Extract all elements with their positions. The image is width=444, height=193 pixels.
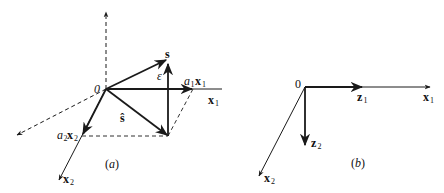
- svg-text:x: x: [423, 90, 429, 104]
- x2-axis-b: [259, 87, 305, 176]
- svg-text:x: x: [67, 128, 73, 142]
- label-z2: z 2: [311, 136, 322, 151]
- svg-text:1: 1: [364, 96, 368, 105]
- label-x1-a: x 1: [208, 93, 219, 108]
- caption-b: (b): [351, 156, 365, 170]
- svg-text:2: 2: [318, 142, 322, 151]
- svg-text:2: 2: [74, 134, 78, 143]
- dashed-projection-line-diagonal: [168, 89, 193, 136]
- svg-text:1: 1: [191, 80, 195, 89]
- label-s-hat: ŝ: [120, 111, 125, 125]
- label-z1: z 1: [357, 90, 368, 105]
- panel-b: 0 z 1 x 1 z 2 x 2 (b): [259, 77, 434, 186]
- svg-text:(a): (a): [105, 157, 119, 171]
- vector-projection-diagram: 0 s ε ŝ a 1 x 1 x 1 a 2 x 2 x 2 (a): [0, 0, 444, 193]
- svg-text:(b): (b): [351, 156, 365, 170]
- svg-text:x: x: [63, 172, 69, 186]
- svg-text:a: a: [184, 74, 190, 88]
- svg-text:x: x: [264, 171, 270, 185]
- label-x2-b: x 2: [264, 171, 275, 186]
- svg-text:x: x: [195, 74, 201, 88]
- svg-text:x: x: [208, 93, 214, 107]
- label-x2-a: x 2: [63, 172, 74, 187]
- panel-a: 0 s ε ŝ a 1 x 1 x 1 a 2 x 2 x 2 (a): [17, 12, 222, 187]
- label-a2x2: a 2 x 2: [57, 128, 78, 143]
- svg-text:a: a: [57, 128, 63, 142]
- svg-text:2: 2: [271, 177, 275, 186]
- label-epsilon: ε: [157, 69, 162, 83]
- svg-text:2: 2: [70, 178, 74, 187]
- svg-text:1: 1: [202, 80, 206, 89]
- svg-text:z: z: [357, 90, 363, 104]
- label-s: s: [165, 47, 170, 61]
- origin-label-a: 0: [94, 82, 100, 96]
- svg-text:1: 1: [430, 96, 434, 105]
- origin-label-b: 0: [295, 77, 301, 91]
- svg-text:1: 1: [215, 99, 219, 108]
- label-x1-b: x 1: [423, 90, 434, 105]
- label-a1x1: a 1 x 1: [184, 74, 206, 89]
- svg-text:z: z: [311, 136, 317, 150]
- vector-s-hat: [106, 89, 167, 135]
- caption-a: (a): [105, 157, 119, 171]
